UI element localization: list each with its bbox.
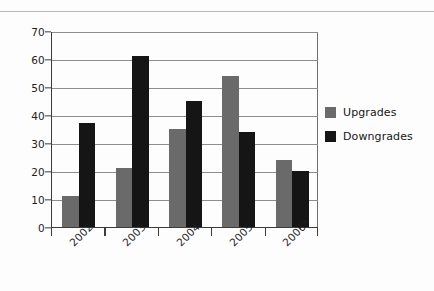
y-axis-tick-label: 60 [5,54,45,66]
bar-upgrades-2006star [276,160,293,227]
bar-downgrades-2004 [186,101,203,227]
x-axis-tick-mark [317,228,318,236]
gridline [52,88,318,89]
bar-downgrades-2005 [239,132,256,227]
gridline [52,32,318,33]
bar-upgrades-2002 [62,196,79,227]
y-axis-tick-label: 20 [5,166,45,178]
x-axis-tick-mark [211,228,212,236]
y-axis-tick-label: 30 [5,138,45,150]
gridline [52,60,318,61]
bar-upgrades-2005 [222,76,239,227]
legend-item-downgrades[interactable]: Downgrades [325,124,434,148]
downgrades-swatch [325,131,336,142]
y-axis-tick-label: 50 [5,82,45,94]
x-axis-tick-labels: 20022003200420052006* [51,240,351,288]
x-axis-tick-mark [51,228,52,236]
bar-chart-figure: 010203040506070 20022003200420052006* Up… [0,0,434,291]
x-axis-tick-mark [104,228,105,236]
plot-frame-right [317,32,318,228]
y-axis-tick-label: 40 [5,110,45,122]
y-axis-tick-labels: 010203040506070 [0,32,45,228]
bar-upgrades-2004 [169,129,186,227]
x-axis-tick-mark [158,228,159,236]
legend-label: Upgrades [343,106,397,119]
y-axis-tick-label: 70 [5,26,45,38]
bar-downgrades-2002 [79,123,96,227]
plot-area [51,32,318,228]
legend-label: Downgrades [343,130,413,143]
chart-legend: UpgradesDowngrades [325,100,434,148]
top-divider-rule [0,11,434,12]
legend-item-upgrades[interactable]: Upgrades [325,100,434,124]
bar-upgrades-2003 [116,168,133,227]
bar-downgrades-2003 [132,56,149,227]
upgrades-swatch [325,107,336,118]
x-axis-tick-mark [265,228,266,236]
y-axis-tick-label: 0 [5,222,45,234]
y-axis-tick-label: 10 [5,194,45,206]
